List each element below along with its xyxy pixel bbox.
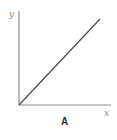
graph-canvas — [0, 0, 117, 140]
proportionality-graph: y x A — [0, 0, 117, 140]
y-axis-label: y — [9, 10, 14, 19]
x-axis-label: x — [104, 109, 109, 118]
panel-label: A — [61, 117, 68, 127]
linear-plot-line — [19, 19, 100, 105]
